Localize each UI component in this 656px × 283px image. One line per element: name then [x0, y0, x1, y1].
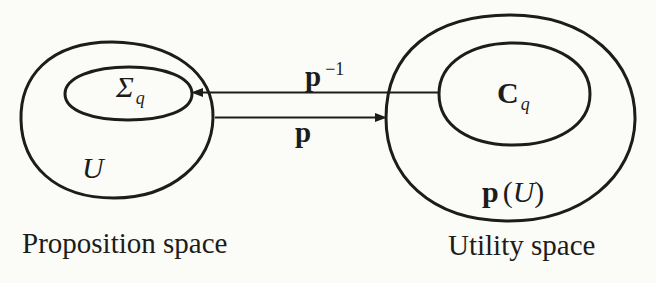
u-label: U [82, 151, 106, 184]
proposition-space-caption: Proposition space [22, 227, 227, 259]
c-q-label: C q [497, 76, 530, 114]
diagram-canvas: Σ q U C q p (U) p −1 p Proposition space… [0, 0, 656, 283]
utility-space-caption: Utility space [448, 229, 595, 261]
sigma-q-label: Σ q [115, 70, 145, 108]
p-inverse-label: p −1 [305, 59, 344, 92]
set-map-diagram: Σ q U C q p (U) p −1 p Proposition space… [0, 0, 656, 283]
p-label: p [295, 116, 311, 148]
p-of-u-label: p (U) [482, 175, 544, 209]
